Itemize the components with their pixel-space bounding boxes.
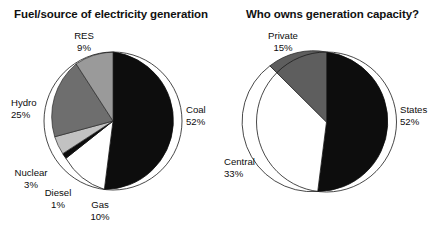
- slice-label-gas-name: Gas: [80, 199, 120, 211]
- slice-label-central: Central 33%: [224, 156, 276, 179]
- slice-label-gas: Gas 10%: [80, 199, 120, 222]
- slice-label-hydro-name: Hydro: [11, 97, 57, 109]
- slice-label-private-name: Private: [257, 30, 309, 42]
- slice-label-states-name: States: [400, 104, 442, 116]
- slice-label-gas-pct: 10%: [80, 211, 120, 223]
- chart-panel-fuel-source: Fuel/source of electricity generation RE…: [0, 0, 222, 237]
- slice-label-hydro: Hydro 25%: [11, 97, 57, 120]
- slice-label-res: RES 9%: [62, 30, 106, 53]
- figure-root: Fuel/source of electricity generation RE…: [0, 0, 443, 237]
- slice-label-diesel: Diesel 1%: [36, 187, 80, 210]
- chart-panel-ownership: Who owns generation capacity? Private 15…: [222, 0, 443, 237]
- slice-label-coal: Coal 52%: [186, 104, 220, 127]
- slice-label-nuclear-name: Nuclear: [5, 167, 57, 179]
- slice-label-states: States 52%: [400, 104, 442, 127]
- slice-label-diesel-pct: 1%: [36, 199, 80, 211]
- slice-label-central-pct: 33%: [224, 168, 276, 180]
- slice-label-res-name: RES: [62, 30, 106, 42]
- slice-label-diesel-name: Diesel: [36, 187, 80, 199]
- slice-label-coal-name: Coal: [186, 104, 220, 116]
- slice-label-central-name: Central: [224, 156, 276, 168]
- slice-label-coal-pct: 52%: [186, 116, 220, 128]
- slice-label-private-pct: 15%: [257, 42, 309, 54]
- slice-label-states-pct: 52%: [400, 116, 442, 128]
- slice-label-res-pct: 9%: [62, 42, 106, 54]
- slice-label-private: Private 15%: [257, 30, 309, 53]
- slice-label-hydro-pct: 25%: [11, 109, 57, 121]
